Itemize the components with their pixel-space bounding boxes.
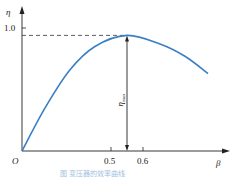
x-axis-arrow bbox=[222, 149, 230, 154]
marks bbox=[22, 35, 208, 151]
eta-max-label: ηmax bbox=[115, 93, 126, 107]
figure-caption: 图 变压器的效率曲线 bbox=[60, 169, 125, 178]
y-tick-label: 1.0 bbox=[4, 23, 16, 33]
x-axis-label: β bbox=[215, 158, 221, 168]
y-axis-label: η bbox=[6, 7, 11, 17]
efficiency-chart: η β O 1.0 0.5 0.6 ηmax 图 变压器的效率曲线 bbox=[0, 0, 231, 178]
axes bbox=[20, 6, 231, 154]
efficiency-curve bbox=[22, 35, 208, 151]
y-axis-arrow bbox=[20, 6, 25, 14]
origin-label: O bbox=[12, 156, 19, 166]
eta-max-arrow-head-top bbox=[125, 35, 129, 41]
x-tick-label: 0.5 bbox=[104, 156, 116, 166]
eta-max-arrow-head-bottom bbox=[125, 145, 129, 151]
x-tick-label: 0.6 bbox=[137, 156, 149, 166]
